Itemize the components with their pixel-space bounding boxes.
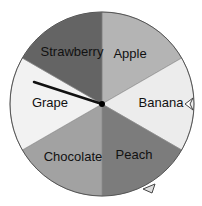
sector-label-strawberry: Strawberry — [41, 44, 104, 59]
sector-label-banana: Banana — [139, 95, 185, 110]
sector-label-chocolate: Chocolate — [44, 149, 103, 164]
wheel-svg: AppleBananaPeachChocolateGrapeStrawberry — [0, 0, 202, 206]
spinner-wheel[interactable]: AppleBananaPeachChocolateGrapeStrawberry — [0, 0, 202, 206]
sector-label-peach: Peach — [116, 147, 153, 162]
sector-label-grape: Grape — [32, 95, 68, 110]
wheel-hub — [99, 101, 105, 107]
sector-label-apple: Apple — [113, 46, 146, 61]
